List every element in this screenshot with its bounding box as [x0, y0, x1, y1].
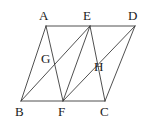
geometry-figure: AEDGHBFC	[0, 0, 146, 127]
vertex-label-b: B	[15, 105, 24, 118]
vertex-label-e: E	[83, 9, 91, 22]
vertex-label-c: C	[100, 105, 109, 118]
segment-EF	[63, 26, 90, 101]
segment-EB	[21, 26, 90, 101]
segment-DC	[105, 26, 135, 101]
vertex-label-h: H	[94, 60, 103, 73]
segment-layer	[21, 26, 135, 101]
vertex-label-d: D	[128, 9, 137, 22]
vertex-label-f: F	[58, 105, 65, 118]
vertex-label-a: A	[39, 9, 48, 22]
vertex-label-g: G	[41, 52, 50, 65]
